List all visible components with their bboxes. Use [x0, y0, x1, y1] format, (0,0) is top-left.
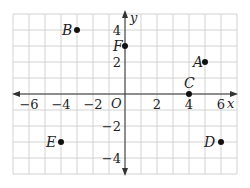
axes: x y O [12, 10, 238, 176]
x-tick-label: 2 [153, 97, 161, 112]
y-axis-label: y [129, 10, 138, 25]
point-label: A [191, 54, 203, 70]
point-dot-icon [122, 43, 128, 49]
y-tick-label: 2 [113, 55, 121, 70]
point-dot-icon [218, 139, 224, 145]
x-tick-label: −2 [83, 97, 102, 112]
x-tick-label: −4 [51, 97, 70, 112]
x-axis-label: x [227, 96, 235, 111]
y-tick-label: 4 [113, 23, 121, 38]
point-label: B [61, 22, 72, 38]
point-dot-icon [186, 91, 192, 97]
y-axis-arrow-down-icon [122, 168, 128, 176]
y-tick-label: −2 [102, 119, 121, 134]
coordinate-plane: x y O −6−4−224642−2−4 ABCDEF [0, 0, 250, 188]
x-tick-label: 4 [185, 97, 193, 112]
point-f: F [112, 38, 128, 54]
point-label: E [45, 134, 56, 150]
point-dot-icon [74, 27, 80, 33]
origin-label: O [111, 96, 122, 111]
point-a: A [191, 54, 208, 70]
point-label: C [184, 75, 195, 91]
points: ABCDEF [45, 22, 224, 150]
x-tick-label: −6 [19, 97, 38, 112]
point-label: D [203, 134, 215, 150]
y-tick-label: −4 [102, 151, 121, 166]
point-label: F [112, 38, 124, 54]
x-tick-label: 6 [217, 97, 225, 112]
point-dot-icon [58, 139, 64, 145]
